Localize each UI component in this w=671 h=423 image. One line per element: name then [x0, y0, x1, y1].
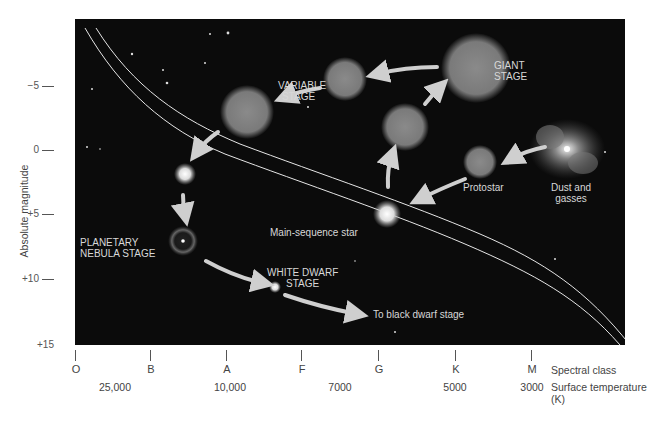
main-sequence-label: Main-sequence star	[270, 227, 358, 238]
x-tick-K	[455, 350, 456, 361]
white-dwarf-label: WHITE DWARFSTAGE	[267, 267, 338, 289]
variable-stage-label: VARIABLESTAGE	[278, 80, 326, 102]
class-M: M	[522, 363, 542, 375]
hot-star	[174, 163, 196, 185]
y-tick-plus10: +10	[14, 273, 54, 284]
protostar	[463, 145, 497, 179]
y-tick-plus5: +5	[14, 208, 54, 219]
hr-diagram-plot: GIANTSTAGE VARIABLESTAGE Protostar Dust …	[75, 19, 625, 345]
expanding-star	[381, 103, 429, 151]
temp-7000: 7000	[310, 381, 370, 393]
x-tick-B	[150, 350, 151, 361]
spectral-class-label: Spectral class	[551, 364, 616, 376]
black-dwarf-label: To black dwarf stage	[373, 309, 464, 320]
x-tick-M	[531, 350, 532, 361]
class-F: F	[292, 363, 312, 375]
x-tick-A	[226, 350, 227, 361]
temp-25000: 25,000	[85, 381, 145, 393]
x-tick-F	[301, 350, 302, 361]
x-tick-O	[75, 350, 76, 361]
variable-star	[220, 85, 274, 139]
variable-star-upper	[323, 57, 367, 101]
y-tick-0: 0	[14, 144, 54, 155]
plot-graphics	[75, 19, 625, 345]
giant-stage-label: GIANTSTAGE	[494, 60, 527, 82]
class-B: B	[141, 363, 161, 375]
protostar-label: Protostar	[463, 182, 504, 193]
y-tick-minus5: −5	[14, 80, 54, 91]
class-O: O	[66, 363, 86, 375]
class-K: K	[446, 363, 466, 375]
dust-and-gasses-label: Dust andgasses	[551, 182, 591, 204]
class-G: G	[369, 363, 389, 375]
temp-10000: 10,000	[200, 381, 260, 393]
x-tick-G	[378, 350, 379, 361]
planetary-nebula-label: PLANETARYNEBULA STAGE	[80, 237, 155, 259]
surface-temperature-label: Surface temperature(K)	[551, 381, 647, 405]
class-A: A	[217, 363, 237, 375]
y-tick-plus15: +15	[14, 339, 54, 350]
main-sequence-star	[373, 200, 401, 228]
temp-5000: 5000	[425, 381, 485, 393]
